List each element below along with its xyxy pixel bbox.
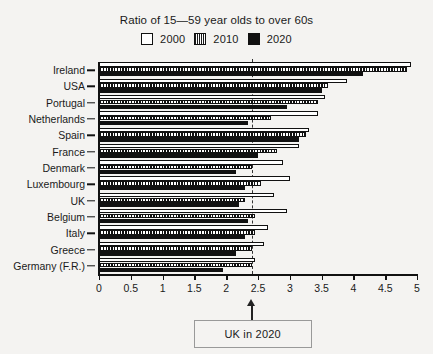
bar-group xyxy=(99,241,417,257)
bar-2000 xyxy=(99,209,287,213)
y-axis-tick xyxy=(87,118,95,119)
x-axis-label: 0.5 xyxy=(123,282,138,294)
x-axis-tick xyxy=(226,274,227,280)
bar-2010 xyxy=(99,132,306,136)
x-axis-tick xyxy=(194,274,195,280)
y-axis-label: Luxembourg xyxy=(27,178,85,190)
bar-2010 xyxy=(99,230,255,234)
bar-2010 xyxy=(99,116,271,120)
y-axis-label: USA xyxy=(63,80,85,92)
bar-group xyxy=(99,258,417,274)
x-axis-tick xyxy=(163,274,164,280)
bar-2020 xyxy=(99,105,287,109)
chart-container: Ratio of 15—59 year olds to over 60s 200… xyxy=(0,0,433,354)
bar-group xyxy=(99,192,417,208)
bar-2000 xyxy=(99,144,299,148)
legend-item-2000[interactable]: 2000 xyxy=(141,33,185,45)
x-axis-ticks: 00.511.522.533.544.55 xyxy=(99,274,419,300)
x-axis-label: 5 xyxy=(414,282,420,294)
x-axis-tick xyxy=(290,274,291,280)
x-axis-label: 1 xyxy=(160,282,166,294)
legend-label-2010: 2010 xyxy=(213,33,238,45)
y-axis-label: Netherlands xyxy=(28,113,85,125)
bar-group xyxy=(99,62,417,78)
chart-legend: 2000 2010 2020 xyxy=(0,33,433,45)
bar-2020 xyxy=(99,153,258,157)
bar-2020 xyxy=(99,202,239,206)
bar-2000 xyxy=(99,242,264,246)
bar-2010 xyxy=(99,67,407,71)
x-axis-tick xyxy=(322,274,323,280)
y-axis-tick xyxy=(87,135,95,136)
bar-2000 xyxy=(99,160,283,164)
filled-square-icon xyxy=(248,33,260,45)
y-axis-label: France xyxy=(52,146,85,158)
bar-group xyxy=(99,209,417,225)
chart-title: Ratio of 15—59 year olds to over 60s xyxy=(0,14,433,26)
y-axis-tick xyxy=(87,216,95,217)
y-axis-label: Belgium xyxy=(47,211,85,223)
bar-group xyxy=(99,176,417,192)
hatched-square-icon xyxy=(194,33,206,45)
y-axis-tick xyxy=(87,69,95,70)
legend-label-2020: 2020 xyxy=(267,33,292,45)
x-axis-label: 0 xyxy=(96,282,102,294)
bar-2010 xyxy=(99,246,252,250)
bar-2020 xyxy=(99,88,322,92)
x-axis-tick xyxy=(353,274,354,280)
bar-group xyxy=(99,127,417,143)
x-axis-label: 4 xyxy=(350,282,356,294)
bar-2020 xyxy=(99,72,363,76)
legend-label-2000: 2000 xyxy=(160,33,185,45)
bar-2020 xyxy=(99,251,236,255)
y-axis-label: Germany (F.R.) xyxy=(13,260,85,272)
bar-group xyxy=(99,111,417,127)
bar-2020 xyxy=(99,268,223,272)
legend-item-2010[interactable]: 2010 xyxy=(194,33,238,45)
bar-2010 xyxy=(99,214,255,218)
bar-2000 xyxy=(99,95,325,99)
annotation-arrow-head xyxy=(247,299,255,306)
bar-2010 xyxy=(99,198,245,202)
x-axis-label: 2.5 xyxy=(251,282,266,294)
bar-group xyxy=(99,225,417,241)
bar-2010 xyxy=(99,149,277,153)
bar-rows xyxy=(99,62,417,274)
x-axis-label: 4.5 xyxy=(378,282,393,294)
bar-2000 xyxy=(99,225,268,229)
y-axis-label: Italy xyxy=(66,227,85,239)
y-axis-tick xyxy=(87,249,95,250)
annotation-callout-box: UK in 2020 xyxy=(194,320,312,348)
y-axis-tick xyxy=(87,102,95,103)
bar-group xyxy=(99,95,417,111)
bar-group xyxy=(99,160,417,176)
bar-group xyxy=(99,78,417,94)
x-axis-label: 1.5 xyxy=(187,282,202,294)
x-axis-tick xyxy=(417,274,418,280)
legend-item-2020[interactable]: 2020 xyxy=(248,33,292,45)
bar-2010 xyxy=(99,181,261,185)
x-axis-label: 3 xyxy=(287,282,293,294)
x-axis-tick xyxy=(258,274,259,280)
bar-2000 xyxy=(99,193,274,197)
bar-2020 xyxy=(99,219,248,223)
y-axis-tick xyxy=(87,265,95,266)
y-axis-tick xyxy=(87,200,95,201)
bar-2020 xyxy=(99,170,236,174)
bar-2020 xyxy=(99,121,248,125)
y-axis-label: Portugal xyxy=(46,97,85,109)
bar-2000 xyxy=(99,62,411,66)
y-axis-label: Ireland xyxy=(53,64,85,76)
y-axis-tick xyxy=(87,233,95,234)
bar-2000 xyxy=(99,79,347,83)
x-axis-tick xyxy=(99,274,100,280)
bar-2010 xyxy=(99,263,252,267)
y-axis-category-labels: IrelandUSAPortugalNetherlandsSpainFrance… xyxy=(0,62,95,274)
bar-2020 xyxy=(99,186,245,190)
bar-2020 xyxy=(99,235,245,239)
bar-2000 xyxy=(99,176,290,180)
x-axis-label: 2 xyxy=(223,282,229,294)
y-axis-label: Spain xyxy=(58,129,85,141)
annotation-label: UK in 2020 xyxy=(224,328,280,340)
bar-2010 xyxy=(99,83,328,87)
